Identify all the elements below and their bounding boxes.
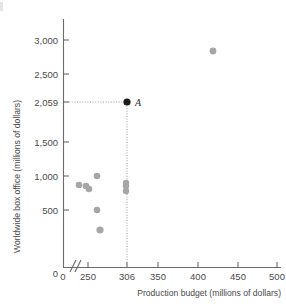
x-axis-ticks [88, 262, 277, 268]
data-point [86, 186, 93, 193]
y-tick-label-500: 500 [42, 205, 58, 216]
x-tick-label-500: 500 [269, 271, 285, 282]
data-point-outlier [210, 48, 217, 55]
x-tick-label-400: 400 [190, 271, 206, 282]
x-axis-title: Production budget (millions of dollars) [137, 288, 281, 298]
point-a-guides [64, 102, 127, 267]
axis-lines [64, 19, 282, 268]
y-axis-tick-labels: 3,000 2,500 2,059 1,500 1,000 500 0 [34, 35, 58, 280]
y-tick-label-3000: 3,000 [34, 35, 58, 46]
y-tick-label-1000: 1,000 [34, 171, 58, 182]
x-tick-label-306: 306 [119, 271, 135, 282]
y-origin-label: 0 [53, 268, 58, 279]
data-point [123, 188, 129, 194]
x-tick-label-450: 450 [230, 271, 246, 282]
chart-canvas: 3,000 2,500 2,059 1,500 1,000 500 0 0 25… [0, 0, 286, 304]
x-axis-tick-labels: 0 250 306 350 400 450 500 [60, 271, 285, 282]
point-a-label: A [134, 97, 142, 108]
y-tick-label-2500: 2,500 [34, 69, 58, 80]
y-axis-ticks [64, 40, 70, 210]
data-point [94, 173, 101, 180]
scan-artifact [0, 2, 3, 11]
y-axis-title: Worldwide box office (millions of dollar… [12, 100, 22, 253]
y-tick-label-2059: 2,059 [34, 97, 58, 108]
data-point [94, 207, 101, 214]
data-point [76, 182, 83, 189]
data-point [96, 226, 103, 233]
x-tick-label-350: 350 [150, 271, 166, 282]
scatter-chart: 3,000 2,500 2,059 1,500 1,000 500 0 0 25… [0, 0, 286, 304]
x-origin-label: 0 [60, 271, 65, 282]
data-points [76, 48, 217, 234]
x-tick-label-250: 250 [80, 271, 96, 282]
y-tick-label-1500: 1,500 [34, 137, 58, 148]
data-point-a [123, 98, 130, 105]
